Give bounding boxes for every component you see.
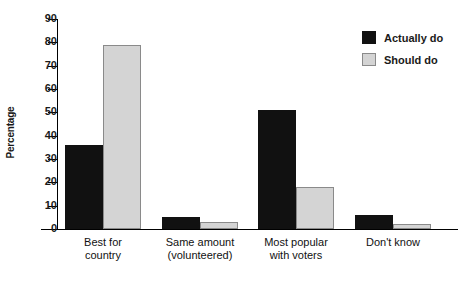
legend-item: Actually do	[362, 31, 443, 44]
x-axis-label: Don't know	[333, 236, 453, 249]
bar-chart: Percentage 0102030405060708090 Best forc…	[0, 0, 461, 282]
y-axis-tick-label: 40	[15, 130, 57, 141]
y-axis-tick-label: 10	[15, 200, 57, 211]
y-axis-tick-label: 20	[15, 176, 57, 187]
bar-actually-do	[355, 215, 393, 229]
y-axis-tick-label: 30	[15, 153, 57, 164]
legend: Actually doShould do	[362, 31, 443, 75]
legend-item: Should do	[362, 53, 443, 66]
bar-should-do	[296, 187, 334, 229]
bar-actually-do	[258, 110, 296, 229]
y-axis-tick-label: 90	[15, 13, 57, 24]
x-axis-label-line: Don't know	[333, 236, 453, 249]
bar-should-do	[103, 45, 141, 229]
legend-swatch-actual	[362, 31, 376, 44]
bar-actually-do	[65, 145, 103, 229]
legend-label: Should do	[384, 54, 438, 66]
y-axis-tick-label: 80	[15, 36, 57, 47]
bar-should-do	[200, 222, 238, 229]
x-axis-line	[41, 229, 458, 230]
y-axis-tick-label: 0	[15, 223, 57, 234]
y-axis-tick-label: 60	[15, 83, 57, 94]
legend-label: Actually do	[384, 32, 443, 44]
bar-should-do	[393, 224, 431, 229]
x-axis-label-line: with voters	[236, 249, 356, 262]
y-axis-tick-label: 50	[15, 106, 57, 117]
bar-actually-do	[162, 217, 200, 229]
y-axis-tick-label: 70	[15, 60, 57, 71]
legend-swatch-should	[362, 53, 376, 66]
